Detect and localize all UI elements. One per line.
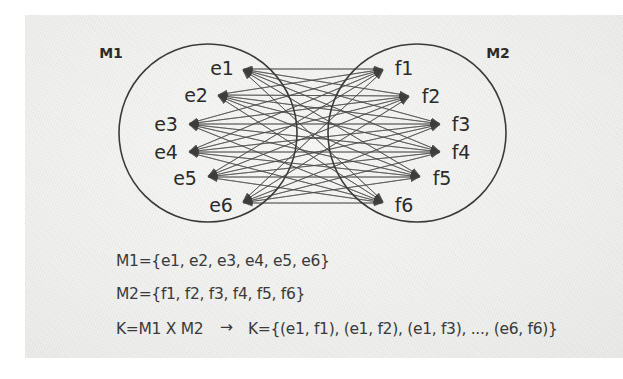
implies-arrow-icon: →	[220, 318, 233, 336]
edge-f1-e2	[219, 69, 383, 94]
node-label-f3: f3	[452, 113, 470, 135]
node-label-f6: f6	[395, 194, 413, 216]
node-label-f4: f4	[452, 141, 470, 163]
node-label-f5: f5	[433, 167, 451, 189]
edge-f2-e2	[219, 95, 409, 96]
node-label-e4: e4	[154, 141, 177, 163]
set-label-m2: M2	[486, 45, 510, 61]
node-label-e5: e5	[173, 167, 196, 189]
formula-k-definition: K=M1 X M2	[116, 320, 203, 338]
node-label-e1: e1	[210, 57, 233, 79]
formula-k-enumeration: K={(e1, f1), (e1, f2), (e1, f3), ..., (e…	[248, 320, 558, 338]
edge-f5-e3	[190, 125, 420, 177]
edge-f5-e6	[244, 177, 420, 202]
set-label-m1: M1	[99, 45, 123, 61]
node-label-f1: f1	[395, 57, 413, 79]
edge-f6-e1	[243, 71, 383, 202]
node-label-f2: f2	[422, 85, 440, 107]
node-label-e6: e6	[209, 194, 232, 216]
edge-f1-e6	[243, 70, 383, 201]
edge-f2-e6	[244, 97, 410, 201]
edge-f4-e2	[219, 96, 440, 152]
edges-layer	[189, 69, 440, 203]
node-label-e3: e3	[154, 113, 177, 135]
node-label-e2: e2	[184, 84, 207, 106]
formula-m2-definition: M2={f1, f2, f3, f4, f5, f6}	[116, 285, 305, 303]
formula-m1-definition: M1={e1, e2, e3, e4, e5, e6}	[116, 252, 330, 270]
edge-f2-e1	[244, 69, 409, 95]
screenshot-root: e1e2e3e4e5e6f1f2f3f4f5f6 M1 M2 M1={e1, e…	[0, 0, 623, 379]
